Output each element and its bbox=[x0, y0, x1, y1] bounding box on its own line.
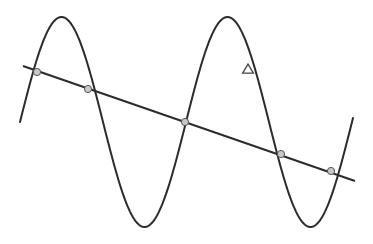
intersection-point bbox=[181, 118, 188, 125]
intersection-point bbox=[33, 68, 40, 75]
triangle-marker bbox=[243, 64, 254, 73]
intersection-point bbox=[277, 150, 284, 157]
intersecting-line bbox=[23, 66, 355, 181]
intersection-point bbox=[84, 85, 91, 92]
intersection-point bbox=[327, 167, 334, 174]
diagram-canvas bbox=[0, 0, 373, 244]
